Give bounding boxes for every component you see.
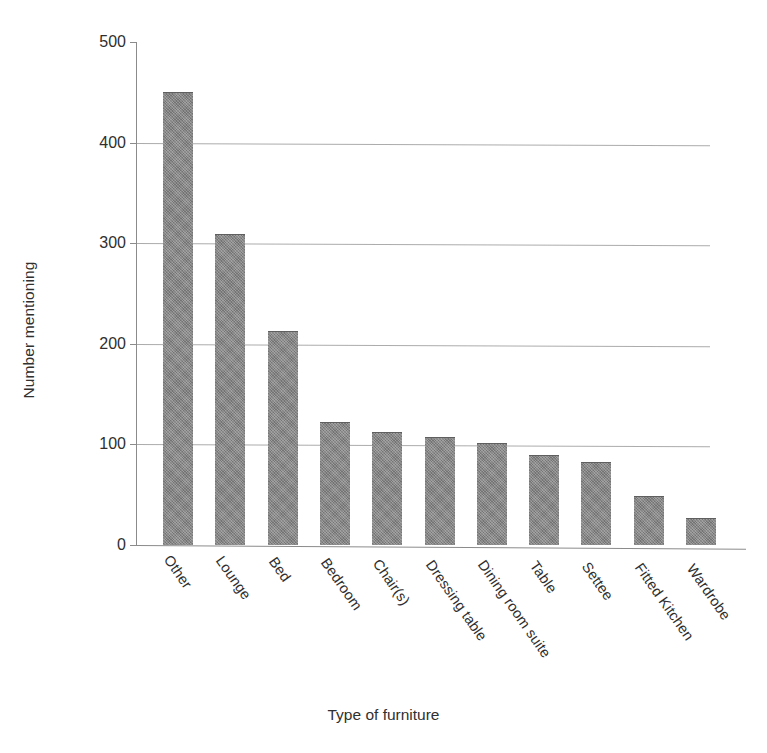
bar-chart: Number mentioning 0100200300400500 Other… — [0, 0, 767, 753]
y-axis-tick-label: 500 — [74, 34, 126, 50]
x-axis-title: Type of furniture — [0, 706, 767, 724]
y-axis-tick-label: 300 — [74, 235, 126, 251]
y-axis-tick-mark — [130, 143, 137, 144]
y-axis-title: Number mentioning — [20, 200, 50, 460]
x-axis-tick-label: Bedroom — [318, 555, 365, 613]
bar — [163, 92, 193, 545]
bar — [581, 462, 611, 545]
bar — [215, 234, 245, 545]
x-axis-tick-label: Wardrobe — [684, 561, 734, 623]
x-axis-tick-label: Table — [527, 558, 560, 596]
bars-group — [136, 42, 746, 545]
y-axis-tick-label: 400 — [74, 135, 126, 151]
bar — [686, 518, 716, 545]
x-axis-tick-labels: OtherLoungeBedBedroomChair(s)Dressing ta… — [0, 548, 767, 688]
bar — [320, 422, 350, 545]
y-axis-tick-mark — [130, 545, 137, 546]
y-axis-tick-mark — [130, 344, 137, 345]
y-axis-tick-label: 100 — [74, 436, 126, 452]
x-axis-tick-label: Lounge — [213, 553, 254, 603]
bar — [425, 437, 455, 545]
x-axis-tick-label: Chair(s) — [370, 556, 413, 608]
y-axis-tick-mark — [130, 42, 137, 43]
bar — [372, 432, 402, 545]
y-axis-tick-mark — [130, 444, 137, 445]
bar — [268, 331, 298, 545]
x-axis-tick-label: Bed — [265, 554, 293, 585]
y-axis-tick-label: 200 — [74, 336, 126, 352]
x-axis-tick-label: Settee — [579, 559, 617, 603]
x-axis-tick-label: Other — [161, 552, 195, 591]
bar — [529, 455, 559, 545]
bar — [634, 496, 664, 545]
bar — [477, 443, 507, 545]
y-axis-tick-mark — [130, 243, 137, 244]
